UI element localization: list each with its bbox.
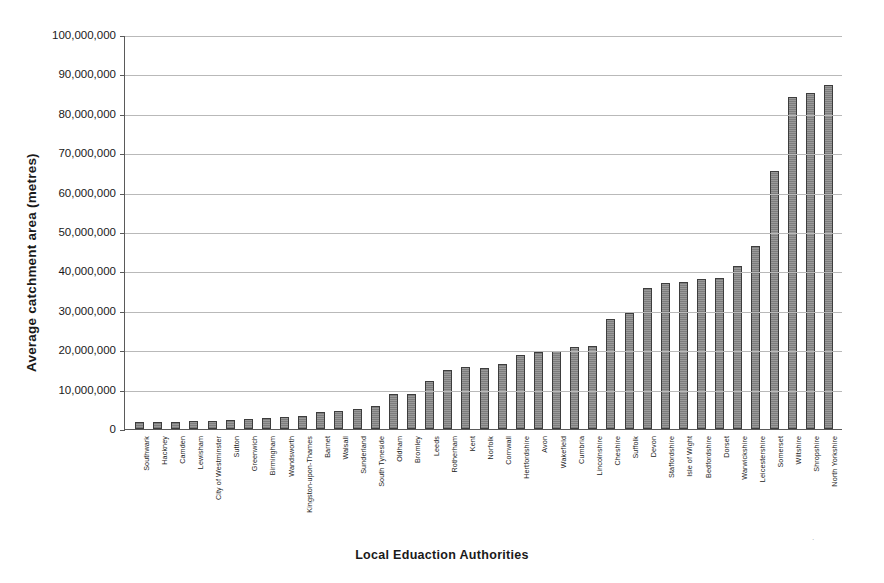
y-axis-tick xyxy=(120,194,125,195)
y-axis-tick-label: 100,000,000 xyxy=(6,29,116,41)
x-axis-tick-label: Avon xyxy=(540,419,549,436)
x-axis-tick-label: Hackney xyxy=(160,407,169,436)
x-axis-tick-label: Warwickshire xyxy=(740,392,749,436)
y-axis-tick xyxy=(120,36,125,37)
x-axis-tick-label: Dorset xyxy=(722,414,731,436)
y-axis-tick-label: 60,000,000 xyxy=(6,187,116,199)
x-axis-tick-label: Leeds xyxy=(432,416,441,436)
bar xyxy=(715,278,724,429)
x-axis-tick-label: North Yorkshire xyxy=(830,385,839,436)
x-axis-title: Local Eduaction Authorities xyxy=(0,548,884,562)
gridline xyxy=(125,36,842,37)
bar xyxy=(625,313,634,429)
x-axis-tick-label: Wandsworth xyxy=(287,395,296,436)
x-axis-tick-label: Birmingham xyxy=(268,397,277,436)
gridline xyxy=(125,312,842,313)
y-axis-tick-label: 50,000,000 xyxy=(6,226,116,238)
gridline xyxy=(125,75,842,76)
x-axis-tick-labels: SouthwarkHackneyCamdenLewishamCity of We… xyxy=(124,434,842,540)
y-axis-tick-label: 20,000,000 xyxy=(6,344,116,356)
x-axis-tick-label: Isle of Wight xyxy=(685,395,694,436)
x-axis-tick-label: Wakefield xyxy=(559,404,568,436)
x-axis-tick-label: Wiltshire xyxy=(794,408,803,436)
x-axis-tick-label: Somerset xyxy=(776,404,785,436)
page-artifact: · xyxy=(812,536,814,543)
x-axis-tick-label: Shropshire xyxy=(812,400,821,436)
gridline xyxy=(125,351,842,352)
y-axis-tick xyxy=(120,233,125,234)
gridline xyxy=(125,391,842,392)
bar xyxy=(643,288,652,429)
gridline xyxy=(125,233,842,234)
gridline xyxy=(125,194,842,195)
gridline xyxy=(125,115,842,116)
y-axis-tick-label: 10,000,000 xyxy=(6,384,116,396)
x-axis-tick-label: Kent xyxy=(468,421,477,436)
x-axis-tick-label: Cornwall xyxy=(504,407,513,436)
y-axis-tick-label: 40,000,000 xyxy=(6,265,116,277)
bar xyxy=(461,367,470,429)
x-axis-tick-label: Bromley xyxy=(413,409,422,436)
x-axis-tick-label: Staffordshire xyxy=(667,394,676,436)
x-axis-tick-label: Devon xyxy=(649,415,658,436)
x-axis-tick-label: Walsall xyxy=(341,412,350,436)
x-axis-tick-label: Barnet xyxy=(323,414,332,436)
bar-chart: Average catchment area (metres) 100,000,… xyxy=(0,0,884,583)
y-axis-tick xyxy=(120,75,125,76)
x-axis-tick-label: Sunderland xyxy=(359,398,368,436)
x-axis-tick-label: Norfolk xyxy=(486,413,495,436)
y-axis-tick xyxy=(120,351,125,352)
x-axis-tick-label: Suffolk xyxy=(631,413,640,436)
y-axis-tick xyxy=(120,430,125,431)
y-axis-tick xyxy=(120,391,125,392)
x-axis-tick-label: Oldham xyxy=(395,410,404,436)
bar xyxy=(788,97,797,429)
x-axis-tick-label: Hertfordshire xyxy=(522,393,531,436)
x-axis-tick-label: City of Westminster xyxy=(214,372,223,436)
y-axis-tick-label: 70,000,000 xyxy=(6,147,116,159)
bar xyxy=(824,85,833,429)
gridline xyxy=(125,154,842,155)
plot-area xyxy=(124,36,842,430)
x-axis-tick-label: Sutton xyxy=(232,415,241,436)
y-axis-tick-label: 0 xyxy=(6,423,116,435)
x-axis-tick-label: Kingston-upon-Thames xyxy=(305,359,314,436)
x-axis-tick-label: Bedfordshire xyxy=(704,394,713,436)
x-axis-tick-label: Rotherham xyxy=(450,400,459,436)
y-axis-tick xyxy=(120,312,125,313)
x-axis-tick-label: Cumbria xyxy=(577,408,586,436)
y-axis-tick-label: 90,000,000 xyxy=(6,68,116,80)
bar xyxy=(806,93,815,429)
y-axis-tick xyxy=(120,154,125,155)
x-axis-tick-label: Lincolnshire xyxy=(595,396,604,436)
y-axis-tick xyxy=(120,115,125,116)
x-axis-tick-label: Leicestershire xyxy=(758,390,767,436)
x-axis-tick-label: Cheshire xyxy=(613,406,622,436)
x-axis-tick-label: Lewisham xyxy=(196,403,205,436)
x-axis-tick-label: Camden xyxy=(178,408,187,436)
y-axis-tick-label: 30,000,000 xyxy=(6,305,116,317)
x-axis-tick-label: South Tyneside xyxy=(377,385,386,436)
x-axis-tick-label: Southwark xyxy=(142,401,151,436)
y-axis-tick-label: 80,000,000 xyxy=(6,108,116,120)
x-axis-tick-label: Greenwich xyxy=(250,401,259,436)
y-axis-tick xyxy=(120,272,125,273)
gridline xyxy=(125,272,842,273)
